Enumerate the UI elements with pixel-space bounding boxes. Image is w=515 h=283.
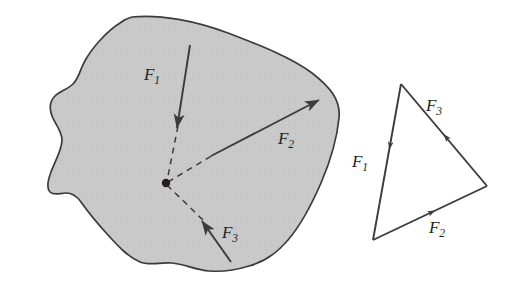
force-diagram-figure: F1 F2 F3 F1 F2 F3 bbox=[0, 0, 515, 283]
triangle-label-f1: F1 bbox=[351, 152, 368, 173]
figure-canvas: F1 F2 F3 F1 F2 F3 bbox=[0, 0, 515, 283]
triangle-label-f3: F3 bbox=[425, 96, 442, 117]
concurrency-point-dot bbox=[162, 179, 170, 187]
triangle-edge-f3 bbox=[401, 84, 487, 186]
free-body-group: F1 F2 F3 bbox=[48, 16, 339, 271]
triangle-edge-f1 bbox=[373, 84, 401, 240]
body-outline-shape bbox=[48, 16, 339, 271]
force-triangle-group: F1 F2 F3 bbox=[351, 84, 487, 240]
triangle-label-f2: F2 bbox=[428, 218, 445, 239]
